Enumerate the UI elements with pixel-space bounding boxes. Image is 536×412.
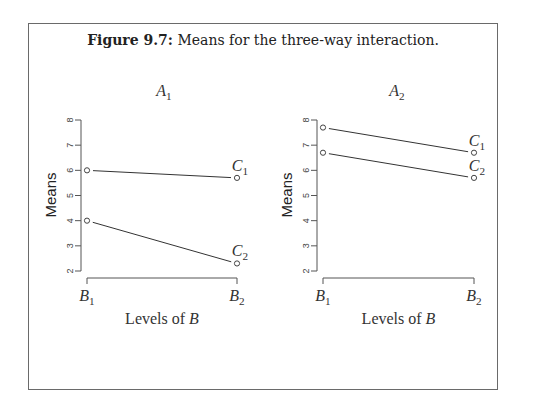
- data-point: [471, 150, 476, 155]
- y-tick-label: 8: [65, 117, 75, 122]
- series-label-c2: C2: [469, 157, 485, 177]
- series-label-c1: C1: [232, 157, 248, 177]
- series-c1: C1: [84, 157, 248, 181]
- panel-title: A1: [155, 82, 171, 102]
- y-tick-label: 7: [65, 143, 75, 148]
- x-axis-label: Levels of B: [362, 310, 436, 327]
- y-tick-label: 7: [301, 143, 311, 148]
- x-tick-label-b2: B2: [466, 287, 481, 307]
- series-label-c2: C2: [232, 242, 248, 262]
- x-tick-label-b1: B1: [315, 287, 330, 307]
- y-axis-label: Means: [278, 172, 295, 217]
- y-tick-label: 3: [65, 243, 75, 248]
- y-tick-label: 3: [301, 243, 311, 248]
- series-line: [329, 154, 468, 177]
- series-line: [329, 129, 468, 152]
- series-line: [93, 171, 231, 178]
- data-point: [234, 261, 239, 266]
- y-tick-label: 2: [65, 268, 75, 273]
- panel-a1: A12345678MeansB1B2Levels of BC1C2: [42, 82, 248, 327]
- y-tick-label: 6: [65, 168, 75, 173]
- series-label-c1: C1: [469, 132, 485, 152]
- panel-title: A2: [388, 82, 404, 102]
- series-line: [93, 222, 231, 261]
- y-axis-label: Means: [42, 172, 59, 217]
- data-point: [471, 175, 476, 180]
- series-c1: C1: [320, 125, 485, 155]
- y-tick-label: 6: [301, 168, 311, 173]
- y-tick-label: 2: [301, 268, 311, 273]
- series-c2: C2: [84, 218, 248, 266]
- data-point: [320, 150, 325, 155]
- data-point: [234, 175, 239, 180]
- x-tick-label-b1: B1: [79, 287, 94, 307]
- panel-a2: A22345678MeansB1B2Levels of BC1C2: [278, 82, 485, 327]
- x-axis-label: Levels of B: [125, 310, 199, 327]
- y-tick-label: 4: [301, 218, 311, 223]
- x-tick-label-b2: B2: [229, 287, 244, 307]
- series-c2: C2: [320, 150, 485, 180]
- data-point: [84, 168, 89, 173]
- data-point: [84, 218, 89, 223]
- y-tick-label: 5: [65, 193, 75, 198]
- interaction-chart: A12345678MeansB1B2Levels of BC1C2A223456…: [0, 0, 536, 412]
- data-point: [320, 125, 325, 130]
- y-tick-label: 8: [301, 117, 311, 122]
- y-tick-label: 5: [301, 193, 311, 198]
- y-tick-label: 4: [65, 218, 75, 223]
